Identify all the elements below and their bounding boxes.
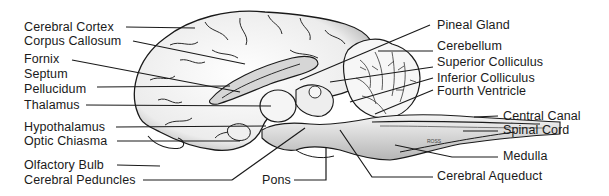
label-hypothalamus: Hypothalamus <box>24 120 105 134</box>
label-medulla: Medulla <box>503 149 547 163</box>
label-cerebral-aqueduct: Cerebral Aqueduct <box>437 169 542 183</box>
artist-signature: ROSS <box>427 138 442 144</box>
label-fourth-ventricle: Fourth Ventricle <box>437 84 526 98</box>
label-pellucidum: Pellucidum <box>24 82 86 96</box>
label-fornix: Fornix <box>24 52 59 66</box>
label-corpus-callosum: Corpus Callosum <box>24 34 121 48</box>
label-pineal-gland: Pineal Gland <box>437 18 510 32</box>
label-superior-colliculus: Superior Colliculus <box>437 55 543 69</box>
brain-diagram: ROSS Cerebral Cortex <box>0 0 609 196</box>
label-cerebral-peduncles: Cerebral Peduncles <box>24 173 136 187</box>
label-septum: Septum <box>24 67 68 81</box>
label-spinal-cord: Spinal Cord <box>503 123 569 137</box>
label-olfactory-bulb: Olfactory Bulb <box>24 158 104 172</box>
label-central-canal: Central Canal <box>503 109 581 123</box>
label-pons: Pons <box>262 173 291 187</box>
label-cerebral-cortex: Cerebral Cortex <box>24 20 114 34</box>
label-thalamus: Thalamus <box>24 98 80 112</box>
label-optic-chiasma: Optic Chiasma <box>24 134 107 148</box>
label-cerebellum: Cerebellum <box>437 39 502 53</box>
label-inferior-colliculus: Inferior Colliculus <box>437 71 535 85</box>
